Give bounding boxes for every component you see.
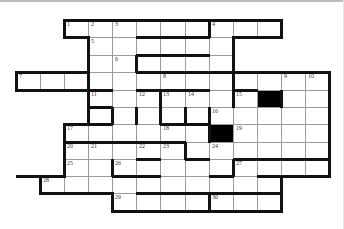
block-cell [257, 90, 282, 108]
word-divider [232, 90, 235, 108]
grid-cell[interactable] [281, 124, 306, 143]
clue-number: 8 [163, 73, 166, 80]
clue-number: 1 [67, 21, 70, 28]
word-divider [63, 124, 66, 177]
grid-cell[interactable]: 19 [233, 124, 258, 143]
grid-cell[interactable] [112, 37, 137, 56]
word-divider [111, 193, 114, 212]
word-divider [63, 20, 66, 38]
clue-number: 22 [139, 143, 145, 150]
grid-cell[interactable] [209, 90, 234, 108]
clue-number: 6 [115, 56, 118, 63]
grid-cell[interactable] [112, 176, 137, 194]
word-divider [280, 193, 283, 212]
clue-number: 29 [115, 194, 121, 201]
word-divider [185, 158, 210, 161]
grid-cell[interactable] [112, 72, 137, 91]
grid-cell[interactable]: 13 [160, 90, 186, 108]
clue-number: 18 [163, 125, 169, 132]
grid-cell[interactable] [112, 90, 137, 108]
word-divider [111, 107, 114, 125]
word-divider [136, 141, 186, 144]
grid-cell[interactable] [160, 159, 186, 177]
grid-cell[interactable] [257, 72, 282, 91]
grid-cell[interactable] [305, 107, 330, 125]
grid-cell[interactable] [233, 107, 258, 125]
word-divider [64, 123, 89, 126]
grid-cell[interactable]: 10 [305, 72, 330, 91]
word-divider [136, 36, 210, 39]
grid-cell[interactable] [136, 107, 161, 125]
word-divider [280, 90, 283, 108]
clue-number: 24 [212, 143, 218, 150]
grid-cell[interactable] [305, 124, 330, 143]
grid-cell[interactable]: 20 [64, 142, 89, 160]
word-divider [233, 158, 330, 161]
grid-cell[interactable]: 21 [88, 142, 113, 160]
word-divider [136, 192, 210, 195]
grid-cell[interactable] [185, 124, 210, 143]
word-divider [208, 20, 211, 38]
word-divider [136, 54, 210, 57]
word-divider [16, 71, 89, 74]
word-divider [208, 107, 211, 125]
clue-number: 19 [236, 125, 242, 132]
word-divider [64, 19, 282, 22]
clue-number: 17 [67, 125, 73, 132]
clue-number: 30 [212, 194, 218, 201]
grid-cell[interactable] [281, 107, 306, 125]
clue-number: 16 [212, 108, 218, 115]
grid-cell[interactable]: 2 [88, 20, 113, 38]
grid-cell[interactable]: 6 [112, 55, 137, 73]
grid-cell[interactable]: 16 [209, 107, 234, 125]
word-divider [135, 55, 138, 73]
word-divider [209, 175, 234, 178]
grid-cell[interactable] [281, 90, 306, 108]
word-divider [328, 72, 331, 177]
grid-cell[interactable] [305, 90, 330, 108]
clue-number: 25 [67, 160, 73, 167]
grid-cell[interactable] [257, 124, 282, 143]
word-divider [184, 107, 187, 125]
word-divider [232, 159, 235, 177]
clue-number: 15 [236, 91, 242, 98]
word-divider [280, 176, 283, 194]
grid-cell[interactable] [112, 107, 137, 125]
clue-number: 2 [91, 21, 94, 28]
word-divider [88, 106, 113, 109]
grid-cell[interactable]: 3 [112, 20, 137, 38]
clue-number: 14 [188, 91, 194, 98]
grid-cell[interactable]: 27 [233, 159, 258, 177]
word-divider [159, 90, 162, 125]
word-divider [136, 158, 161, 161]
grid-cell[interactable] [112, 142, 137, 160]
word-divider [88, 123, 113, 126]
clue-number: 28 [43, 177, 49, 184]
word-divider [208, 193, 211, 212]
grid-cell[interactable]: 12 [136, 90, 161, 108]
grid-cell[interactable] [185, 159, 210, 177]
grid-cell[interactable] [209, 37, 234, 56]
clue-number: 10 [308, 73, 314, 80]
grid-cell[interactable] [88, 159, 113, 177]
grid-cell[interactable]: 4 [209, 20, 234, 38]
word-divider [233, 89, 258, 92]
word-divider [87, 37, 90, 91]
word-divider [112, 210, 282, 213]
grid-cell[interactable]: 23 [160, 142, 186, 160]
grid-cell[interactable]: 15 [233, 90, 258, 108]
grid-cell[interactable] [257, 107, 282, 125]
grid-cell[interactable]: 14 [185, 90, 210, 108]
word-divider [112, 175, 137, 178]
block-cell [209, 124, 234, 143]
word-divider [136, 175, 161, 178]
grid-cell[interactable] [209, 72, 234, 91]
grid-cell[interactable] [88, 55, 113, 73]
grid-cell[interactable]: 25 [64, 159, 89, 177]
word-divider [208, 124, 211, 143]
clue-number: 21 [91, 143, 97, 150]
clue-number: 5 [91, 38, 94, 45]
grid-cell[interactable]: 9 [281, 72, 306, 91]
grid-cell[interactable]: 5 [88, 37, 113, 56]
grid-cell[interactable]: 24 [209, 142, 234, 160]
